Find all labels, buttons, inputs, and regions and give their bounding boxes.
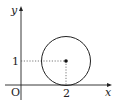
x-tick-label: 2 <box>63 87 70 100</box>
x-axis-label: x <box>105 86 112 99</box>
y-axis-label: y <box>10 4 18 17</box>
coordinate-diagram: y x O 1 2 <box>0 0 120 110</box>
center-point <box>64 59 68 63</box>
y-tick-label: 1 <box>12 55 19 68</box>
y-axis-arrow-icon <box>19 6 23 11</box>
origin-label: O <box>11 86 20 99</box>
